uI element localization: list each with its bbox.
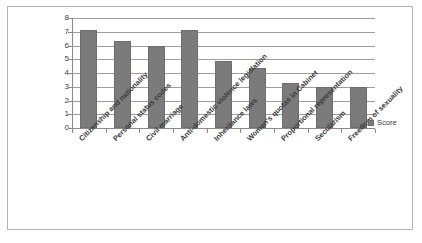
y-axis-tick-mark: [68, 101, 72, 102]
bar: [350, 87, 367, 128]
y-axis-tick-mark: [68, 46, 72, 47]
chart-legend: Score: [368, 119, 397, 127]
bar-series-score: [72, 18, 375, 128]
bar: [148, 46, 165, 129]
x-axis-tick-mark: [274, 129, 275, 133]
chart-frame: 876543210 Citizenship and nationalityPer…: [7, 6, 413, 230]
legend-entry-label: Score: [377, 119, 397, 127]
bar: [215, 61, 232, 128]
x-axis-tick-mark: [139, 129, 140, 133]
bar: [80, 30, 97, 128]
x-axis-tick-mark: [207, 129, 208, 133]
x-axis-tick-mark: [173, 129, 174, 133]
bar: [282, 83, 299, 128]
y-axis-tick-labels: 876543210: [54, 18, 69, 128]
x-axis-tick-mark: [106, 129, 107, 133]
y-axis-tick-mark: [68, 32, 72, 33]
x-axis-tick-mark: [72, 129, 73, 133]
x-axis-tick-mark: [341, 129, 342, 133]
x-axis-tick-mark: [240, 129, 241, 133]
x-axis-tick-mark: [375, 129, 376, 133]
bar: [249, 68, 266, 128]
x-axis-line: [72, 128, 375, 129]
bar: [181, 30, 198, 128]
legend-square-marker-icon: [368, 120, 374, 126]
y-axis-tick-mark: [68, 87, 72, 88]
bar: [114, 41, 131, 128]
x-axis-tick-mark: [308, 129, 309, 133]
y-axis-tick-mark: [68, 114, 72, 115]
y-axis-tick-mark: [68, 59, 72, 60]
y-axis-tick-mark: [68, 18, 72, 19]
bar: [316, 87, 333, 128]
y-axis-tick-mark: [68, 73, 72, 74]
